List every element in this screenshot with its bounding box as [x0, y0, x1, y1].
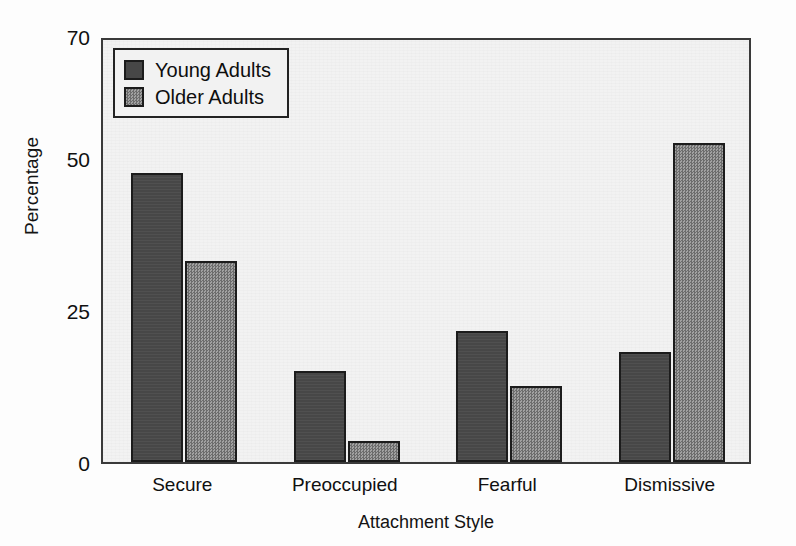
- bar-chart-figure: Percentage 70 50 25 0 Young Adults Older…: [0, 0, 796, 546]
- y-axis-ticks: 70 50 25 0: [28, 0, 90, 546]
- legend-label-older-adults: Older Adults: [155, 87, 264, 107]
- legend-item-young-adults: Young Adults: [124, 56, 271, 83]
- x-tick-label-dismissive: Dismissive: [560, 474, 780, 496]
- y-tick-label-25: 25: [34, 301, 90, 322]
- legend-swatch-older-adults-icon: [124, 87, 144, 107]
- y-tick-label-70: 70: [34, 27, 90, 48]
- bar-secure-young-adults: [131, 173, 183, 462]
- bar-dismissive-older-adults: [673, 143, 725, 463]
- bar-preoccupied-older-adults: [348, 441, 400, 462]
- bar-fearful-young-adults: [456, 331, 508, 462]
- y-tick-label-50: 50: [34, 149, 90, 170]
- y-tick-label-0: 0: [34, 453, 90, 474]
- bar-preoccupied-young-adults: [294, 371, 346, 462]
- bar-dismissive-young-adults: [619, 352, 671, 462]
- x-axis-title: Attachment Style: [101, 512, 751, 533]
- chart-legend: Young Adults Older Adults: [113, 48, 289, 118]
- plot-area: Young Adults Older Adults: [101, 38, 751, 464]
- bar-secure-older-adults: [185, 261, 237, 462]
- legend-item-older-adults: Older Adults: [124, 83, 271, 110]
- bar-fearful-older-adults: [510, 386, 562, 462]
- legend-label-young-adults: Young Adults: [155, 60, 271, 80]
- legend-swatch-young-adults-icon: [124, 60, 144, 80]
